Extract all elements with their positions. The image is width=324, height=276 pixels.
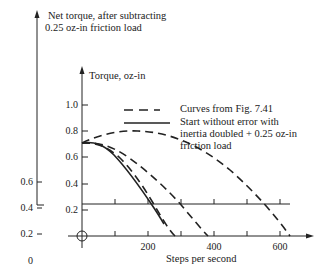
secondary-y-axis: 0.6 0.4 0.2 0 Net torque, after subtract… <box>21 10 168 266</box>
y-tick-0.4: 0.4 <box>66 178 79 189</box>
y2-label-line1: Net torque, after subtracting <box>48 10 167 21</box>
y-axis-label: Torque, oz-in <box>89 70 146 81</box>
legend-solid-label-2: inertia doubled + 0.25 oz-in <box>180 128 298 139</box>
legend-dashed-label: Curves from Fig. 7.41 <box>180 103 273 114</box>
x-tick-200: 200 <box>141 241 156 252</box>
x-axis-label: Steps per second <box>166 253 237 264</box>
y2-tick-0.2: 0.2 <box>21 228 34 239</box>
arrow-up-icon <box>80 66 85 74</box>
x-tick-600: 600 <box>273 241 288 252</box>
solid-curve <box>82 143 164 225</box>
arrow-up-icon <box>35 10 40 18</box>
legend-solid-label-3: friction load <box>180 140 232 151</box>
y-tick-0.2: 0.2 <box>66 204 79 215</box>
y-tick-0.6: 0.6 <box>66 151 79 162</box>
legend-solid-label-1: Start without error with <box>180 116 280 127</box>
y-tick-1.0: 1.0 <box>66 99 79 110</box>
torque-speed-chart: 0.6 0.4 0.2 0 Net torque, after subtract… <box>0 0 324 276</box>
x-tick-400: 400 <box>207 241 222 252</box>
y2-tick-0.6: 0.6 <box>21 176 34 187</box>
y2-tick-0: 0 <box>28 255 33 266</box>
x-axis: 200 400 600 Steps per second <box>68 231 314 264</box>
y2-label-line2: 0.25 oz-in friction load <box>45 22 143 33</box>
y-tick-0.8: 0.8 <box>66 125 79 136</box>
dashed-curve-lower <box>82 143 175 236</box>
arrow-right-icon <box>306 234 314 239</box>
y2-tick-0.4: 0.4 <box>21 202 34 213</box>
primary-y-axis: Torque, oz-in 1.0 0.8 0.6 0.4 0.2 <box>66 66 147 248</box>
legend: Curves from Fig. 7.41 Start without erro… <box>124 103 298 151</box>
friction-line <box>82 199 290 204</box>
